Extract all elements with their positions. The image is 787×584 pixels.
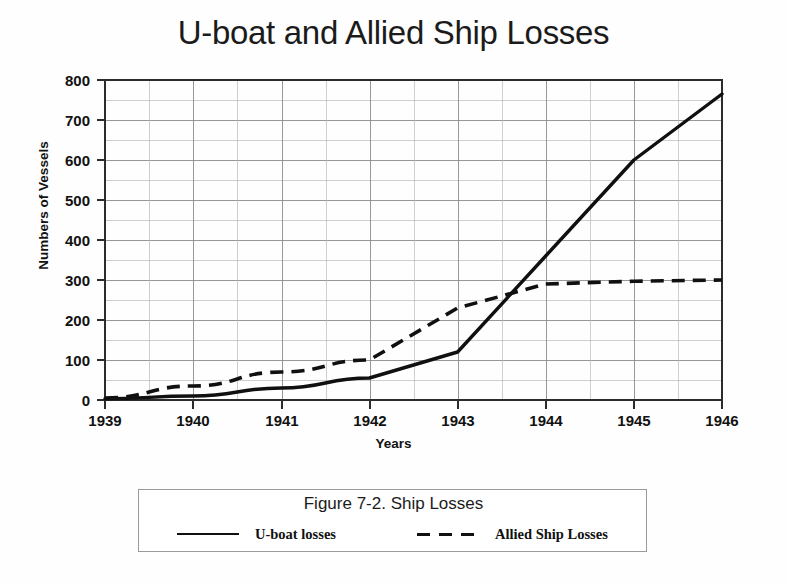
y-tick-label: 100 [65, 352, 90, 369]
chart-page: U-boat and Allied Ship Losses [0, 0, 787, 584]
y-tick-label: 500 [65, 192, 90, 209]
horizontal-major-gridlines [105, 80, 722, 400]
y-tick-label: 800 [65, 72, 90, 89]
figure-caption: Figure 7-2. Ship Losses [139, 494, 648, 514]
x-tick-label: 1942 [353, 412, 386, 429]
y-axis-label: Numbers of Vessels [36, 116, 51, 296]
x-axis-label: Years [0, 436, 787, 451]
x-tick-label: 1943 [441, 412, 474, 429]
x-tick-label: 1946 [705, 412, 738, 429]
y-tick-label: 400 [65, 232, 90, 249]
y-tick-label: 700 [65, 112, 90, 129]
y-tick-label: 200 [65, 312, 90, 329]
legend-label: U-boat losses [255, 526, 336, 543]
x-axis-ticks: 1939 1940 1941 1942 1943 1944 1945 1946 [88, 400, 738, 429]
x-tick-label: 1941 [265, 412, 298, 429]
x-tick-label: 1940 [176, 412, 209, 429]
x-tick-label: 1945 [617, 412, 650, 429]
legend-item-allied-ship-losses[interactable]: Allied Ship Losses [417, 523, 608, 545]
legend-label: Allied Ship Losses [495, 526, 608, 543]
solid-line-swatch-icon [177, 527, 239, 541]
dashed-line-swatch-icon [417, 527, 479, 541]
legend: Figure 7-2. Ship Losses U-boat losses Al… [138, 489, 647, 552]
y-axis-ticks: 800 700 600 500 400 300 200 100 0 [65, 72, 105, 409]
x-tick-label: 1939 [88, 412, 121, 429]
x-tick-label: 1944 [529, 412, 563, 429]
y-tick-label: 600 [65, 152, 90, 169]
legend-item-uboat-losses[interactable]: U-boat losses [177, 523, 336, 545]
y-tick-label: 0 [82, 392, 90, 409]
y-tick-label: 300 [65, 272, 90, 289]
